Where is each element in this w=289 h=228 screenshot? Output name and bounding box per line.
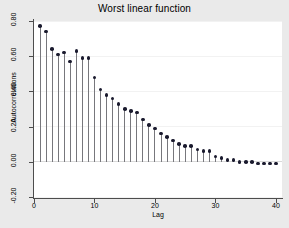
- spike: [94, 77, 95, 161]
- data-point-marker: [105, 93, 109, 97]
- x-axis-line: [33, 198, 283, 199]
- data-point-marker: [135, 111, 139, 115]
- y-tick-mark: [29, 162, 33, 163]
- data-point-marker: [117, 102, 121, 106]
- y-tick-mark: [29, 56, 33, 57]
- spike: [70, 61, 71, 161]
- x-tick-label: 0: [23, 202, 45, 209]
- spike: [64, 53, 65, 162]
- data-point-marker: [268, 162, 272, 166]
- spike: [124, 109, 125, 162]
- y-tick-label: -0.20: [0, 192, 28, 199]
- y-tick-mark: [29, 197, 33, 198]
- gridline: [34, 21, 282, 22]
- spike: [185, 146, 186, 162]
- data-point-marker: [93, 76, 97, 80]
- gridline: [34, 126, 282, 127]
- y-tick-label: 0.80: [0, 16, 28, 23]
- data-point-marker: [177, 142, 181, 146]
- spike: [118, 104, 119, 162]
- data-point-marker: [171, 139, 175, 143]
- gridline: [34, 56, 282, 57]
- data-point-marker: [262, 162, 266, 166]
- spike: [112, 98, 113, 161]
- y-axis-title: Autocorrelations: [10, 58, 17, 138]
- x-tick-label: 30: [204, 202, 226, 209]
- data-point-marker: [196, 148, 200, 152]
- y-axis-line: [33, 19, 34, 199]
- data-point-marker: [159, 132, 163, 136]
- data-point-marker: [62, 51, 66, 55]
- spike: [76, 51, 77, 162]
- spike: [58, 54, 59, 161]
- data-point-marker: [111, 97, 115, 101]
- data-point-marker: [81, 56, 85, 60]
- data-point-marker: [147, 123, 151, 127]
- spike: [130, 111, 131, 162]
- spike: [40, 26, 41, 162]
- spike: [100, 90, 101, 162]
- spike: [148, 125, 149, 162]
- data-point-marker: [165, 135, 169, 139]
- data-point-marker: [68, 60, 72, 64]
- data-point-marker: [214, 155, 218, 159]
- data-point-marker: [44, 30, 48, 34]
- spike: [142, 120, 143, 162]
- spike: [52, 49, 53, 162]
- data-point-marker: [183, 144, 187, 148]
- data-point-marker: [129, 109, 133, 113]
- spike: [46, 32, 47, 162]
- spike: [88, 58, 89, 162]
- data-point-marker: [220, 156, 224, 160]
- data-point-marker: [208, 149, 212, 153]
- data-point-marker: [244, 160, 248, 164]
- data-point-marker: [238, 160, 242, 164]
- data-point-marker: [153, 127, 157, 131]
- spike: [179, 144, 180, 162]
- spike: [154, 128, 155, 161]
- spike: [106, 95, 107, 162]
- data-point-marker: [123, 107, 127, 111]
- spike: [197, 149, 198, 161]
- data-point-marker: [87, 56, 91, 60]
- data-point-marker: [189, 144, 193, 148]
- spike: [191, 146, 192, 162]
- data-point-marker: [75, 49, 79, 53]
- data-point-marker: [38, 24, 42, 28]
- data-point-marker: [141, 118, 145, 122]
- x-tick-label: 40: [265, 202, 287, 209]
- data-point-marker: [274, 162, 278, 166]
- x-tick-label: 20: [144, 202, 166, 209]
- spike: [173, 141, 174, 162]
- x-tick-label: 10: [83, 202, 105, 209]
- data-point-marker: [50, 47, 54, 51]
- y-tick-label: 0.00: [0, 157, 28, 164]
- y-tick-mark: [29, 127, 33, 128]
- spike: [167, 137, 168, 162]
- x-axis-title: Lag: [34, 211, 282, 218]
- gridline: [34, 91, 282, 92]
- spike: [136, 113, 137, 162]
- plot-area: [34, 21, 282, 197]
- chart-screenshot: Worst linear function -0.200.000.200.400…: [0, 0, 289, 228]
- data-point-marker: [202, 149, 206, 153]
- y-tick-mark: [29, 91, 33, 92]
- spike: [82, 58, 83, 162]
- data-point-marker: [256, 162, 260, 166]
- y-tick-mark: [29, 21, 33, 22]
- data-point-marker: [250, 160, 254, 164]
- chart-title: Worst linear function: [0, 3, 289, 14]
- spike: [161, 134, 162, 162]
